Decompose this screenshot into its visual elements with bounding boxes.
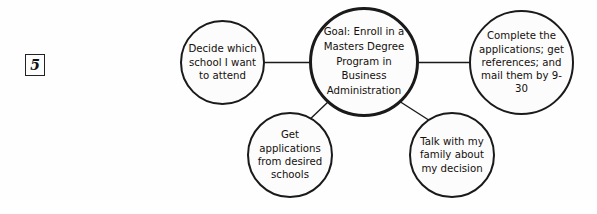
node-getapps-label: Get applications from desired schools bbox=[249, 128, 331, 182]
node-goal[interactable]: Goal: Enroll in a Masters Degree Program… bbox=[309, 7, 419, 117]
node-get-applications[interactable]: Get applications from desired schools bbox=[247, 112, 333, 198]
node-decide-which-school[interactable]: Decide which school I want to attend bbox=[180, 20, 265, 105]
item-number-box: 5 bbox=[25, 54, 45, 76]
node-goal-label: Goal: Enroll in a Masters Degree Program… bbox=[312, 25, 416, 99]
node-talk-label: Talk with my family about my decision bbox=[411, 135, 493, 175]
node-decide-label: Decide which school I want to attend bbox=[182, 42, 263, 83]
item-number-label: 5 bbox=[30, 57, 40, 73]
node-complete-applications[interactable]: Complete the applications; get reference… bbox=[469, 10, 574, 115]
diagram-canvas: 5 Decide which school I want to attend G… bbox=[0, 0, 597, 214]
node-talk-with-family[interactable]: Talk with my family about my decision bbox=[409, 112, 495, 198]
node-complete-label: Complete the applications; get reference… bbox=[471, 29, 572, 95]
